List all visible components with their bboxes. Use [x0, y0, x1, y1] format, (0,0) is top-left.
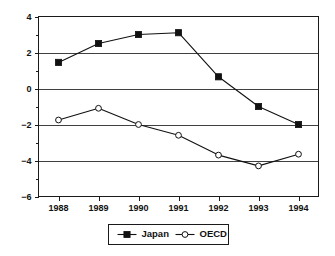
x-axis-tick-label: 1990 — [128, 203, 148, 213]
data-point-marker — [56, 117, 62, 123]
data-point-marker — [296, 151, 302, 157]
data-point-marker — [295, 121, 301, 127]
y-axis-tick-label: −6 — [21, 192, 31, 202]
y-axis-tick-label: 2 — [26, 48, 31, 58]
legend-label: Japan — [142, 228, 170, 239]
legend-marker — [182, 232, 188, 238]
data-point-marker — [135, 31, 141, 37]
data-point-marker — [136, 122, 142, 128]
y-axis-tick-label: −2 — [21, 120, 31, 130]
line-chart: 420−2−4−6 1988198919901991199219931994 J… — [0, 0, 335, 256]
data-point-marker — [216, 152, 222, 158]
x-axis-tick-label: 1993 — [248, 203, 268, 213]
legend-marker — [124, 231, 130, 237]
data-point-marker — [55, 59, 61, 65]
x-axis-tick-label: 1989 — [88, 203, 108, 213]
data-point-marker — [215, 74, 221, 80]
data-point-marker — [95, 40, 101, 46]
y-axis-tick-label: 0 — [26, 84, 31, 94]
legend-label: OECD — [200, 228, 228, 239]
chart-canvas: 420−2−4−6 1988198919901991199219931994 J… — [0, 0, 335, 256]
data-point-marker — [176, 132, 182, 138]
data-point-marker — [256, 163, 262, 169]
x-axis-tick-label: 1992 — [208, 203, 228, 213]
chart-background — [0, 0, 335, 256]
data-point-marker — [96, 105, 102, 111]
x-axis-tick-label: 1994 — [288, 203, 308, 213]
chart-legend: JapanOECD — [109, 225, 229, 245]
y-axis-tick-label: 4 — [26, 12, 31, 22]
data-point-marker — [175, 30, 181, 36]
x-axis-tick-label: 1988 — [48, 203, 68, 213]
y-axis-tick-label: −4 — [21, 156, 31, 166]
x-axis-tick-label: 1991 — [168, 203, 188, 213]
data-point-marker — [255, 103, 261, 109]
